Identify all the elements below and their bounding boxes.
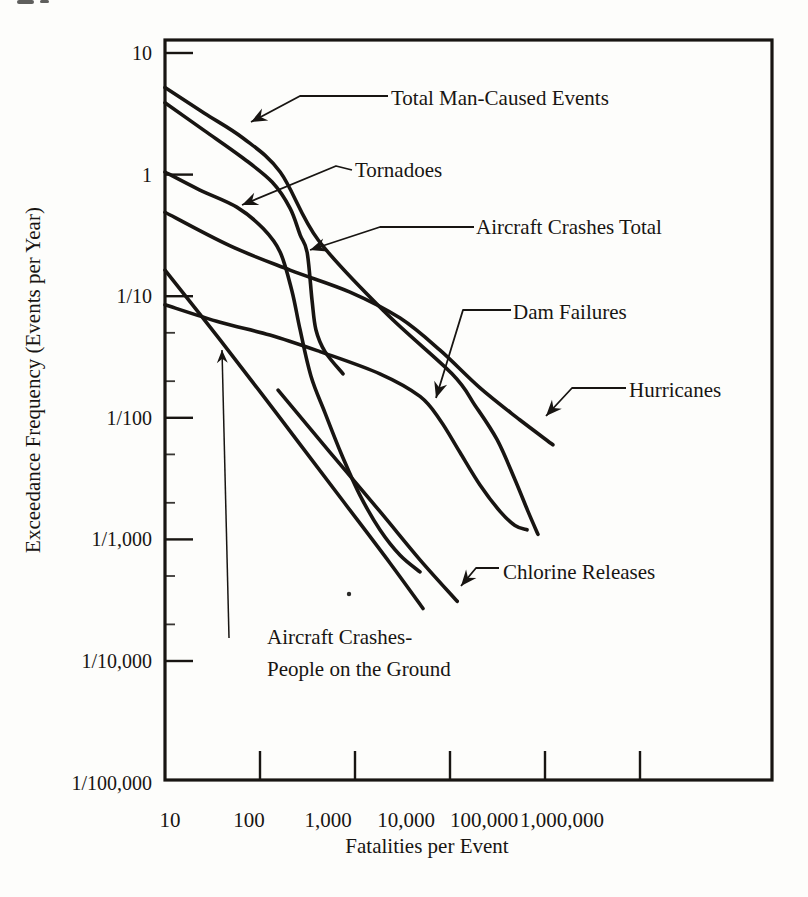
y-tick-label-10: 10	[132, 42, 152, 64]
x-tick-label-1,000: 1,000	[304, 808, 351, 832]
y-tick-label-1/1,000: 1/1,000	[91, 528, 152, 550]
label-total-man-caused-events: Total Man-Caused Events	[391, 86, 609, 110]
leader-aircraft-total	[310, 227, 474, 250]
x-tick-label-10,000: 10,000	[377, 808, 435, 832]
scanned-figure-page: 1011/101/1001/1,0001/10,0001/100,0001010…	[0, 0, 808, 897]
leader-dam-failures	[436, 310, 511, 398]
x-axis-title: Fatalities per Event	[345, 834, 508, 858]
label-hurricanes: Hurricanes	[629, 378, 721, 402]
curve-total-man-caused	[165, 88, 538, 535]
scan-artifact	[17, 0, 34, 4]
leader-hurricanes	[546, 388, 626, 416]
label-aircraft-crashes-ground-line2: People on the Ground	[267, 657, 451, 681]
x-tick-label-100: 100	[233, 808, 265, 832]
fn-risk-chart: 1011/101/1001/1,0001/10,0001/100,0001010…	[0, 0, 808, 897]
label-tornadoes: Tornadoes	[355, 158, 442, 182]
tick-labels: 1011/101/1001/1,0001/10,0001/100,0001010…	[71, 42, 604, 832]
leader-total-man-caused	[251, 96, 388, 122]
plot-frame	[165, 40, 772, 780]
scan-artifact	[347, 592, 351, 596]
x-tick-label-100,000: 100,000	[450, 808, 518, 832]
arrowhead-total-man-caused	[248, 109, 268, 128]
arrowhead-tornadoes	[239, 193, 259, 212]
x-tick-label-10: 10	[160, 808, 181, 832]
y-tick-label-1/100: 1/100	[106, 407, 152, 429]
x-axis-ticks	[260, 751, 640, 780]
y-tick-label-1/10,000: 1/10,000	[81, 650, 152, 672]
leader-aircraft-ground	[222, 350, 229, 638]
y-axis-title: Exceedance Frequency (Events per Year)	[21, 207, 45, 553]
label-aircraft-crashes-total: Aircraft Crashes Total	[476, 215, 662, 239]
y-tick-label-1/100,000: 1/100,000	[71, 772, 152, 794]
x-tick-label-1,000,000: 1,000,000	[520, 808, 604, 832]
arrowhead-dam-failures	[430, 381, 448, 400]
y-tick-label-1: 1	[142, 164, 152, 186]
scan-artifact	[40, 0, 49, 3]
label-chlorine-releases: Chlorine Releases	[503, 560, 655, 584]
curve-aircraft-ground	[165, 270, 423, 608]
label-dam-failures: Dam Failures	[513, 300, 627, 324]
y-tick-label-1/10: 1/10	[116, 285, 152, 307]
y-axis-ticks	[165, 53, 193, 661]
label-aircraft-crashes-ground-line1: Aircraft Crashes-	[267, 625, 412, 649]
curve-chlorine	[278, 390, 457, 601]
